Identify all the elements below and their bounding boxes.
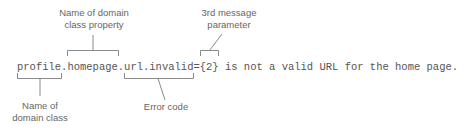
label-error-code: Error code xyxy=(138,101,194,113)
bracket-error-code xyxy=(125,73,194,100)
message-property-line: profile.homepage.url.invalid={2} is not … xyxy=(17,60,458,74)
label-domain-class: Name of domain class xyxy=(8,100,72,124)
bracket-message-parameter xyxy=(201,34,223,56)
bracket-domain-class xyxy=(18,73,62,96)
label-domain-class-property: Name of domain class property xyxy=(58,7,130,31)
message-key-diagram: Name of domain class property 3rd messag… xyxy=(0,0,467,128)
bracket-domain-class-property xyxy=(68,35,119,56)
label-message-parameter: 3rd message parameter xyxy=(196,7,262,31)
